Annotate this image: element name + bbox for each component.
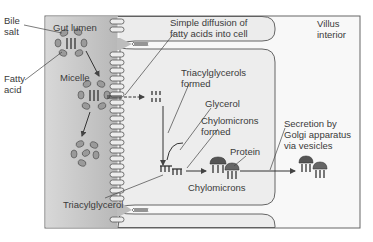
label-gut-lumen: Gut lumen: [53, 22, 97, 33]
fat-absorption-diagram: Bile salt Gut lumen Fatty acid Micelle S…: [0, 0, 373, 242]
label-glycerol: Glycerol: [205, 98, 240, 109]
label-protein: Protein: [230, 146, 260, 157]
label-fatty-acid: Fatty acid: [4, 73, 25, 95]
bottom-cell: [118, 213, 275, 228]
label-secretion: Secretion by Golgi apparatus via vesicle…: [284, 118, 351, 151]
label-simple-diffusion: Simple diffusion of fatty acids into cel…: [170, 17, 248, 39]
microvilli-bottom: [110, 217, 124, 222]
label-triacylglycerols-formed: Triacylglycerols formed: [181, 67, 246, 89]
label-triacylglycerol: Triacylglycerol: [63, 199, 123, 210]
chylomicron-1: [210, 157, 226, 173]
label-chylomicrons-formed: Chylomicrons formed: [201, 115, 259, 137]
label-villus-interior: Villus interior: [317, 18, 346, 40]
label-chylomicrons: Chylomicrons: [188, 182, 246, 193]
gut-lumen-region: [46, 17, 118, 228]
label-micelle: Micelle: [60, 72, 90, 83]
label-bile-salt: Bile salt: [4, 15, 20, 37]
